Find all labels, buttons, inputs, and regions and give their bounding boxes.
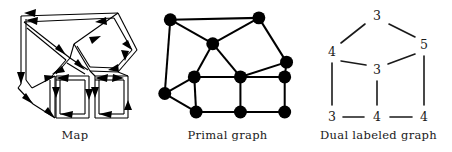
- dual-label-bottom-right: 4: [420, 109, 428, 124]
- caption-map: Map: [0, 128, 150, 142]
- panel-map: Map: [0, 0, 150, 152]
- dual-label-right: 5: [420, 37, 428, 52]
- primal-graph-drawing: [150, 0, 305, 128]
- dual-label-center: 3: [373, 62, 381, 77]
- caption-dual-labeled-graph: Dual labeled graph: [305, 128, 452, 142]
- panel-primal: Primal graph: [150, 0, 305, 152]
- primal-node: [278, 70, 291, 83]
- primal-node: [188, 70, 201, 83]
- map-arrowheads: [17, 9, 132, 118]
- primal-node: [158, 87, 171, 100]
- dual-label-bottom-center: 4: [373, 109, 381, 124]
- dual-label-left: 4: [328, 44, 336, 59]
- caption-primal-graph: Primal graph: [150, 128, 305, 142]
- dual-label-bottom-left: 3: [328, 109, 336, 124]
- primal-node: [278, 106, 291, 119]
- figure-three-panel-map-graphs: Map: [0, 0, 452, 152]
- primal-node: [190, 106, 203, 119]
- dual-node-labels: 3 4 5 3 3 4 4: [328, 8, 428, 124]
- primal-edges: [165, 18, 287, 112]
- primal-node: [206, 37, 219, 50]
- dual-label-top: 3: [373, 8, 381, 23]
- map-drawing: [0, 0, 150, 128]
- panel-dual: 3 4 5 3 3 4 4 Dual labeled graph: [305, 0, 452, 152]
- primal-node: [234, 70, 247, 83]
- primal-node: [164, 13, 177, 26]
- primal-node: [252, 11, 265, 24]
- primal-node: [234, 106, 247, 119]
- dual-graph-drawing: 3 4 5 3 3 4 4: [305, 0, 452, 128]
- primal-node: [280, 56, 293, 69]
